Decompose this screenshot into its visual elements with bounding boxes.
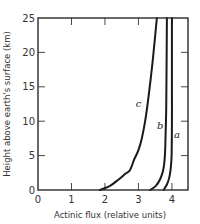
- curve-label-b: b: [157, 120, 163, 131]
- x-tick-label: 4: [169, 194, 175, 205]
- x-tick-label: 1: [68, 194, 74, 205]
- x-tick-label: 3: [135, 194, 141, 205]
- curve-label-a: a: [174, 129, 180, 140]
- actinic-flux-chart: 012340510152025 abc Actinic flux (relati…: [0, 0, 200, 224]
- y-tick-label: 10: [22, 116, 35, 127]
- tick-labels: 012340510152025: [22, 13, 175, 206]
- y-tick-label: 20: [22, 47, 35, 58]
- curve-b: [150, 18, 167, 190]
- x-tick-label: 2: [102, 194, 108, 205]
- y-tick-label: 15: [22, 81, 35, 92]
- curve-label-c: c: [136, 98, 142, 109]
- y-tick-label: 5: [29, 150, 35, 161]
- curve-c: [100, 18, 157, 190]
- x-axis-label: Actinic flux (relative units): [54, 210, 166, 220]
- x-tick-label: 0: [35, 194, 41, 205]
- y-tick-label: 0: [29, 185, 35, 196]
- y-tick-label: 25: [22, 13, 35, 24]
- y-axis-label: Height above earth's surface (km): [2, 31, 12, 177]
